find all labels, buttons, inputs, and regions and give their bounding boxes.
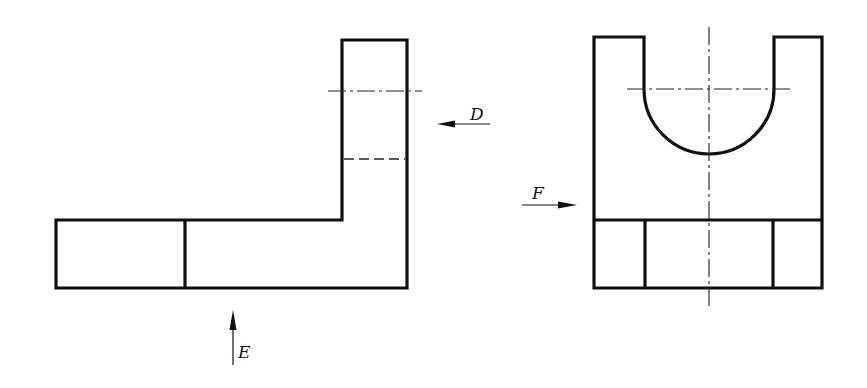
view-arrow-e: E	[230, 310, 252, 365]
label-f: F	[531, 183, 545, 203]
arrow-head-up-icon	[230, 310, 237, 330]
front-view	[56, 40, 422, 288]
view-arrow-d: D	[437, 104, 490, 128]
side-view	[594, 27, 822, 308]
view-arrow-f: F	[522, 183, 577, 209]
l-shape-outline	[56, 40, 407, 288]
label-d: D	[469, 104, 484, 124]
arrow-head-left-icon	[437, 121, 455, 128]
projection-drawing: D E F	[0, 0, 867, 388]
u-block-outline	[594, 37, 822, 288]
label-e: E	[237, 342, 251, 362]
arrow-head-right-icon	[558, 202, 577, 209]
